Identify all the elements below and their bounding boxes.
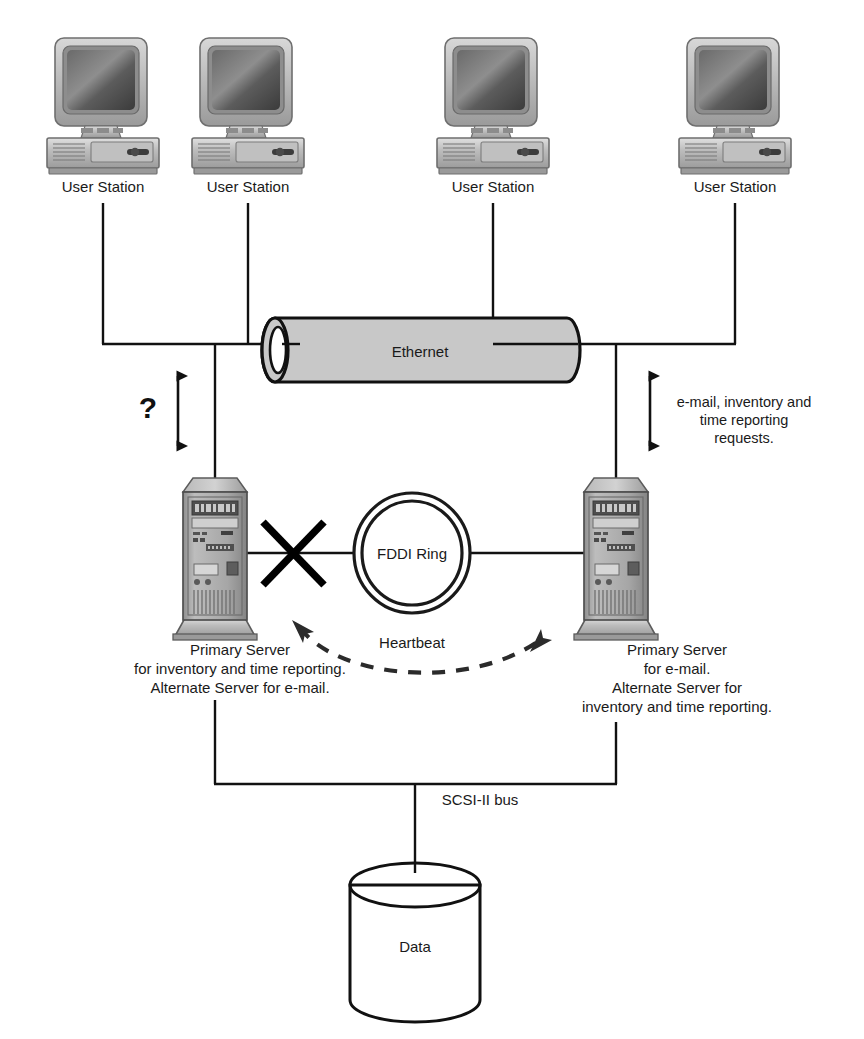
left-server-caption-line-2: for inventory and time reporting. [134, 660, 346, 677]
right-link-annotation-line-1: e-mail, inventory and [677, 394, 812, 410]
left-server-caption-line-1: Primary Server [190, 641, 290, 658]
heartbeat-label: Heartbeat [379, 634, 446, 651]
workstation-label-1: User Station [62, 178, 145, 195]
server-tower-icon [173, 478, 257, 640]
scsi-bus-label: SCSI-II bus [442, 791, 519, 808]
right-server-caption-line-4: inventory and time reporting. [582, 698, 772, 715]
right-server-caption-line-2: for e-mail. [644, 660, 711, 677]
workstation-icon [192, 38, 304, 174]
workstation-label-2: User Station [207, 178, 290, 195]
workstation-group-3: User Station [437, 38, 549, 344]
workstation-label-4: User Station [694, 178, 777, 195]
question-mark-label: ? [139, 391, 157, 424]
workstation-icon [679, 38, 791, 174]
failover-arrowhead-left-icon [292, 620, 314, 643]
failover-arrowhead-right-icon [530, 629, 552, 652]
right-link-annotation-line-3: requests. [714, 430, 774, 446]
right-link-status: e-mail, inventory and time reporting req… [650, 376, 811, 446]
workstation-group-1: User Station [47, 38, 159, 344]
left-server: Primary Server for inventory and time re… [134, 478, 346, 696]
server-tower-icon [574, 478, 658, 640]
left-link-status: ? [139, 376, 178, 446]
scsi-bus: SCSI-II bus [214, 700, 617, 873]
right-server-caption-line-3: Alternate Server for [612, 679, 742, 696]
right-server-caption-line-1: Primary Server [627, 641, 727, 658]
right-link-annotation-line-2: time reporting [700, 412, 789, 428]
ethernet-bus: Ethernet [262, 318, 580, 382]
data-storage-label: Data [399, 938, 431, 955]
right-server: Primary Server for e-mail. Alternate Ser… [574, 478, 772, 715]
network-diagram: User Station User Station User Station U… [0, 0, 864, 1039]
data-storage: Data [350, 863, 480, 1022]
workstation-icon [437, 38, 549, 174]
fddi-ring-label: FDDI Ring [377, 545, 447, 562]
workstation-group-2: User Station [192, 38, 304, 344]
workstation-group-4: User Station [679, 38, 791, 344]
fddi-ring: FDDI Ring Heartbeat [354, 493, 470, 651]
workstation-icon [47, 38, 159, 174]
ethernet-label: Ethernet [392, 343, 450, 360]
network-diagram-canvas: User Station User Station User Station U… [0, 0, 864, 1039]
workstation-label-3: User Station [452, 178, 535, 195]
left-server-caption-line-3: Alternate Server for e-mail. [150, 679, 329, 696]
